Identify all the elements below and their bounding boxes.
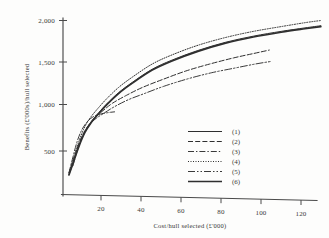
curve-1: [69, 26, 321, 175]
legend-item-4: (4): [188, 158, 241, 166]
legend-item-2: (2): [188, 138, 241, 146]
legend-label-2: (2): [232, 138, 241, 146]
x-axis-title: Cost/hull selected (£'000): [153, 222, 226, 230]
x-tick-label-100: 100: [255, 209, 266, 217]
legend-item-3: (3): [188, 148, 241, 156]
chart-legend: (1) (2) (3) (4) (5) (6): [188, 128, 241, 186]
legend-item-6: (6): [188, 178, 241, 186]
y-tick-label-1000: 1,000: [38, 101, 55, 109]
legend-label-6: (6): [232, 178, 241, 186]
line-chart: 2,000 1,500 1,000 500 20 40 60 80 100 12…: [0, 0, 329, 238]
x-axis-line: [62, 195, 318, 201]
chart-figure: 2,000 1,500 1,000 500 20 40 60 80 100 12…: [0, 0, 329, 238]
y-axis-title: Benefits (£'000s)/hull selected: [23, 63, 31, 150]
curve-6: [69, 27, 321, 175]
curve-5: [73, 61, 271, 165]
legend-label-4: (4): [232, 158, 241, 166]
legend-item-1: (1): [188, 128, 241, 136]
legend-label-3: (3): [232, 148, 241, 156]
legend-item-5: (5): [188, 168, 241, 176]
x-axis-ticks: [101, 195, 301, 205]
y-tick-label-500: 500: [44, 148, 55, 156]
x-tick-label-20: 20: [97, 205, 105, 213]
x-tick-label-40: 40: [137, 206, 145, 214]
y-tick-label-1500: 1,500: [38, 59, 55, 67]
curve-group: [69, 21, 321, 175]
x-tick-label-60: 60: [177, 207, 185, 215]
legend-label-5: (5): [232, 168, 241, 176]
curve-4: [69, 21, 321, 173]
x-tick-label-120: 120: [295, 210, 306, 218]
legend-label-1: (1): [232, 128, 241, 136]
y-tick-label-2000: 2,000: [38, 17, 55, 25]
x-tick-label-80: 80: [217, 208, 225, 216]
